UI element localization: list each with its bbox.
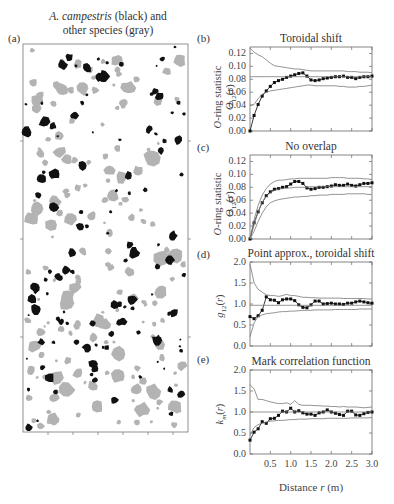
panel-label-e: (e)	[197, 353, 209, 365]
x-tick-label: 3.0	[360, 458, 384, 469]
y-tick-label: 0.5	[216, 319, 246, 330]
y-tick-label: 0.00	[216, 233, 246, 244]
x-axis-label: Distance r (m)	[250, 481, 372, 493]
y-tick-label: 0.02	[216, 220, 246, 231]
y-tick-label: 0.08	[216, 73, 246, 84]
y-tick-label: 1.0	[216, 406, 246, 417]
map-title: A. campestris (black) and	[18, 10, 198, 22]
y-tick-label: 0.12	[216, 155, 246, 166]
chart-e-mark-correlation	[250, 370, 372, 454]
panel-label-d: (d)	[197, 248, 210, 260]
chart-d-point-approx	[250, 262, 372, 346]
panel-label-b: (b)	[197, 32, 210, 44]
chart-d-title: Point approx., toroidal shift	[232, 247, 390, 259]
y-tick-label: 1.5	[216, 277, 246, 288]
y-tick-label: 0.10	[216, 60, 246, 71]
y-tick-label: 0.02	[216, 112, 246, 123]
panel-label-c: (c)	[197, 141, 209, 153]
y-tick-label: 0.0	[216, 448, 246, 459]
y-tick-label: 0.5	[216, 427, 246, 438]
y-tick-label: 0.06	[216, 86, 246, 97]
map-title-line2: other species (gray)	[18, 24, 198, 36]
y-tick-label: 2.0	[216, 256, 246, 267]
y-tick-label: 1.0	[216, 298, 246, 309]
y-tick-label: 2.0	[216, 364, 246, 375]
y-tick-label: 0.06	[216, 194, 246, 205]
y-tick-label: 1.5	[216, 385, 246, 396]
chart-b-toroidal-shift	[250, 47, 372, 131]
y-tick-label: 0.0	[216, 340, 246, 351]
y-tick-label: 0.00	[216, 125, 246, 136]
chart-b-title: Toroidal shift	[250, 32, 372, 44]
y-tick-label: 0.04	[216, 207, 246, 218]
chart-e-title: Mark correlation function	[232, 355, 390, 367]
y-tick-label: 0.10	[216, 168, 246, 179]
species-map	[23, 44, 188, 432]
y-tick-label: 0.12	[216, 47, 246, 58]
y-tick-label: 0.08	[216, 181, 246, 192]
map-title-species: A. campestris	[49, 10, 112, 22]
chart-c-no-overlap	[250, 155, 372, 239]
chart-c-title: No overlap	[250, 140, 372, 152]
y-tick-label: 0.04	[216, 99, 246, 110]
map-title-rest: (black) and	[112, 10, 167, 22]
